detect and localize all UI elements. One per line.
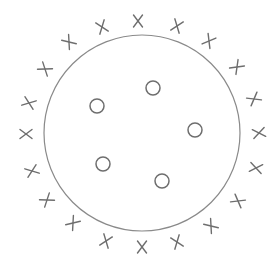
x-mark-icon — [231, 194, 246, 208]
o-mark-icon — [96, 157, 110, 171]
x-mark-icon — [40, 193, 55, 207]
o-class-points — [90, 81, 202, 188]
x-mark-icon — [134, 15, 143, 27]
x-mark-icon — [38, 62, 53, 76]
x-mark-icon — [252, 128, 265, 139]
x-mark-icon — [230, 60, 245, 75]
x-mark-icon — [202, 34, 216, 49]
x-mark-icon — [66, 216, 81, 231]
o-mark-icon — [155, 174, 169, 188]
x-mark-icon — [20, 130, 32, 139]
x-mark-icon — [25, 165, 39, 178]
o-mark-icon — [90, 99, 104, 113]
x-mark-icon — [22, 97, 36, 110]
o-mark-icon — [188, 123, 202, 137]
x-mark-icon — [62, 35, 77, 50]
x-mark-icon — [171, 235, 184, 249]
x-mark-icon — [96, 20, 109, 34]
x-mark-icon — [247, 92, 262, 106]
x-mark-icon — [171, 19, 184, 33]
o-mark-icon — [146, 81, 160, 95]
classification-diagram — [0, 0, 279, 259]
x-mark-icon — [249, 163, 262, 174]
x-mark-icon — [204, 219, 219, 234]
x-mark-icon — [138, 241, 147, 253]
x-mark-icon — [100, 234, 113, 248]
x-class-points — [20, 15, 266, 253]
decision-boundary-circle — [44, 35, 240, 231]
